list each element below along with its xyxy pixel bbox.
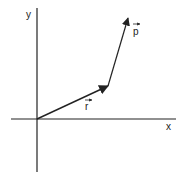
vector-diagram: y x r p: [0, 0, 184, 175]
y-axis-label: y: [26, 9, 31, 20]
vector-p-arrow: [108, 18, 128, 86]
vector-p-label: p: [133, 26, 139, 37]
x-axis-label: x: [166, 121, 171, 132]
vector-r-arrow: [37, 86, 108, 119]
vector-r-label: r: [85, 101, 89, 112]
